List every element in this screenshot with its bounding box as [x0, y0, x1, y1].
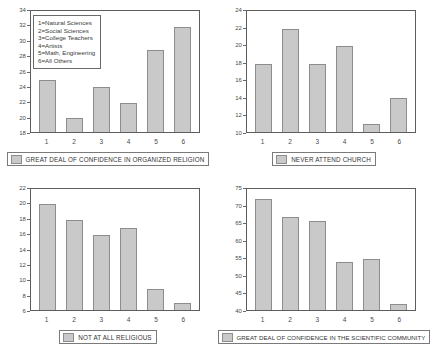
- bar: [93, 235, 110, 310]
- plot-area-panel-4: [246, 188, 416, 311]
- bar: [147, 50, 164, 132]
- x-axis-panel-4: 123456: [246, 312, 416, 326]
- chart-panel-never-attend-church: 1012141618202224 123456 NEVER ATTEND CHU…: [216, 0, 432, 178]
- x-axis-tick-label: 2: [65, 312, 82, 326]
- chart-panel-not-at-all-religious: 6810121416182022 123456 NOT AT ALL RELIG…: [0, 178, 216, 356]
- legend-swatch-icon: [222, 333, 233, 342]
- y-axis-tick-label: 28: [19, 53, 26, 59]
- y-axis-tick-label: 55: [235, 255, 242, 261]
- legend-swatch-icon: [276, 155, 287, 164]
- bar: [363, 259, 380, 310]
- y-axis-tick-label: 24: [235, 7, 242, 13]
- bar: [390, 304, 407, 310]
- legend-line: 5=Math, Engineering: [38, 49, 95, 57]
- x-axis-tick-label: 1: [254, 312, 271, 326]
- caption-label: GREAT DEAL OF CONFIDENCE IN THE SCIENTIF…: [237, 334, 426, 341]
- caption-panel-1: GREAT DEAL OF CONFIDENCE IN ORGANIZED RE…: [0, 152, 216, 166]
- y-axis-tick-label: 40: [235, 308, 242, 314]
- x-axis-tick-label: 6: [175, 312, 192, 326]
- x-axis-panel-3: 123456: [30, 312, 200, 326]
- x-axis-tick-label: 2: [281, 134, 298, 148]
- plot-area-panel-2: [246, 10, 416, 133]
- x-axis-tick-label: 2: [281, 312, 298, 326]
- legend-swatch-icon: [11, 155, 22, 164]
- x-axis-tick-label: 3: [309, 134, 326, 148]
- x-axis-tick-label: 6: [391, 134, 408, 148]
- y-axis-tick-label: 32: [19, 22, 26, 28]
- x-axis-tick-label: 4: [336, 312, 353, 326]
- x-axis-tick-label: 3: [309, 312, 326, 326]
- plot-area-panel-3: [30, 188, 200, 311]
- x-axis-tick-label: 5: [147, 134, 164, 148]
- y-axis-panel-3: 6810121416182022: [0, 188, 30, 311]
- bar: [363, 124, 380, 132]
- x-axis-tick-label: 4: [120, 312, 137, 326]
- bar: [120, 228, 137, 310]
- caption-label: NOT AT ALL RELIGIOUS: [78, 334, 151, 341]
- bar: [39, 204, 56, 310]
- y-axis-panel-4: 4045505560657075: [216, 188, 246, 311]
- y-axis-tick-label: 60: [235, 238, 242, 244]
- y-axis-tick-label: 14: [19, 247, 26, 253]
- y-axis-tick-label: 10: [235, 130, 242, 136]
- y-axis-panel-2: 1012141618202224: [216, 10, 246, 133]
- y-axis-tick-label: 10: [19, 277, 26, 283]
- y-axis-tick-label: 20: [235, 42, 242, 48]
- y-axis-tick-label: 14: [235, 95, 242, 101]
- y-axis-tick-label: 22: [19, 99, 26, 105]
- chart-panel-organized-religion: 182022242628303234 1=Natural Sciences 2=…: [0, 0, 216, 178]
- y-axis-tick-label: 65: [235, 220, 242, 226]
- bar: [309, 221, 326, 310]
- y-axis-tick-label: 26: [19, 69, 26, 75]
- x-axis-tick-label: 4: [336, 134, 353, 148]
- x-axis-tick-label: 3: [93, 134, 110, 148]
- y-axis-tick-label: 18: [19, 216, 26, 222]
- legend-line: 1=Natural Sciences: [38, 19, 95, 27]
- bar: [255, 199, 272, 310]
- caption-panel-2: NEVER ATTEND CHURCH: [216, 152, 432, 166]
- y-axis-tick-label: 22: [235, 25, 242, 31]
- y-axis-tick-label: 75: [235, 185, 242, 191]
- x-axis-panel-2: 123456: [246, 134, 416, 148]
- y-axis-tick-label: 50: [235, 273, 242, 279]
- bar: [282, 29, 299, 132]
- bar: [66, 220, 83, 310]
- caption-label: GREAT DEAL OF CONFIDENCE IN ORGANIZED RE…: [26, 156, 205, 163]
- y-axis-panel-1: 182022242628303234: [0, 10, 30, 133]
- y-axis-tick-label: 30: [19, 38, 26, 44]
- legend-line: 2=Social Sciences: [38, 27, 95, 35]
- y-axis-tick-label: 18: [19, 130, 26, 136]
- x-axis-tick-label: 5: [363, 312, 380, 326]
- y-axis-tick-label: 8: [23, 293, 26, 299]
- bar: [255, 64, 272, 132]
- bar: [120, 103, 137, 132]
- y-axis-tick-label: 18: [235, 60, 242, 66]
- y-axis-tick-label: 6: [23, 308, 26, 314]
- y-axis-tick-label: 20: [19, 115, 26, 121]
- caption-panel-3: NOT AT ALL RELIGIOUS: [0, 330, 216, 344]
- x-axis-tick-label: 6: [391, 312, 408, 326]
- x-axis-panel-1: 123456: [30, 134, 200, 148]
- y-axis-tick-label: 12: [19, 262, 26, 268]
- legend-swatch-icon: [63, 333, 74, 342]
- y-axis-tick-label: 45: [235, 290, 242, 296]
- bar: [174, 27, 191, 132]
- x-axis-tick-label: 5: [363, 134, 380, 148]
- x-axis-tick-label: 6: [175, 134, 192, 148]
- bar: [93, 87, 110, 132]
- x-axis-tick-label: 5: [147, 312, 164, 326]
- chart-panel-scientific-community: 4045505560657075 123456 GREAT DEAL OF CO…: [216, 178, 432, 356]
- x-axis-tick-label: 4: [120, 134, 137, 148]
- caption-panel-4: GREAT DEAL OF CONFIDENCE IN THE SCIENTIF…: [216, 330, 432, 344]
- y-axis-tick-label: 22: [19, 185, 26, 191]
- bar: [39, 80, 56, 132]
- y-axis-tick-label: 16: [235, 77, 242, 83]
- bar: [336, 262, 353, 310]
- y-axis-tick-label: 12: [235, 112, 242, 118]
- legend-line: 3=College Teachers: [38, 34, 95, 42]
- legend-line: 6=All Others: [38, 57, 95, 65]
- y-axis-tick-label: 34: [19, 7, 26, 13]
- bar: [309, 64, 326, 132]
- y-axis-tick-label: 24: [19, 84, 26, 90]
- caption-label: NEVER ATTEND CHURCH: [291, 156, 371, 163]
